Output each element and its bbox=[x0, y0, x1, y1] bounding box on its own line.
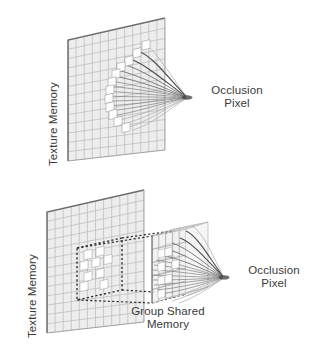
figure-root: Texture Memory Occlusion Pixel Texture M… bbox=[0, 0, 312, 347]
top-occlusion-pixel-label: Occlusion Pixel bbox=[199, 84, 275, 110]
diagram-canvas bbox=[0, 0, 312, 347]
top-occlusion-pixel-line2: Pixel bbox=[199, 97, 275, 110]
bottom-occlusion-pixel-label: Occlusion Pixel bbox=[236, 264, 312, 290]
top-occlusion-pixel-marker bbox=[182, 95, 193, 99]
group-shared-memory-line1: Group Shared bbox=[118, 305, 218, 318]
top-texture-memory-label: Texture Memory bbox=[47, 82, 60, 166]
group-shared-memory-label: Group Shared Memory bbox=[118, 305, 218, 331]
bottom-texture-memory-label: Texture Memory bbox=[26, 254, 39, 338]
top-occlusion-pixel-line1: Occlusion bbox=[199, 84, 275, 97]
bottom-occlusion-pixel-marker bbox=[219, 275, 230, 279]
group-shared-memory-line2: Memory bbox=[118, 318, 218, 331]
top-texture-memory-plane bbox=[68, 18, 165, 161]
bottom-occlusion-pixel-line1: Occlusion bbox=[236, 264, 312, 277]
gsm-front-face bbox=[152, 229, 186, 303]
bottom-occlusion-pixel-line2: Pixel bbox=[236, 277, 312, 290]
